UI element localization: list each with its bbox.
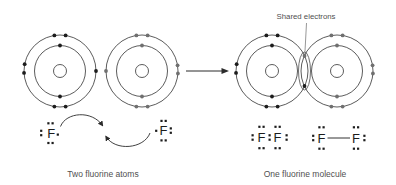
lewis-dot xyxy=(357,148,359,150)
lewis-dot xyxy=(279,147,281,149)
electron-dot xyxy=(146,34,150,38)
lewis-dot xyxy=(40,134,42,136)
caption-two-fluorine-atoms: Two fluorine atoms xyxy=(67,169,138,179)
electron-dot xyxy=(134,34,138,38)
electron-dot xyxy=(341,105,345,109)
lewis-dot xyxy=(318,126,320,128)
electron-dot xyxy=(270,44,274,48)
electron-dot xyxy=(146,105,150,109)
lewis-dot xyxy=(52,122,54,124)
caption-one-fluorine-molecule: One fluorine molecule xyxy=(264,169,347,179)
lewis-dot xyxy=(318,148,320,150)
shared-electron-dot xyxy=(303,84,307,88)
lewis-dot xyxy=(170,132,172,134)
lewis-dot xyxy=(252,134,254,136)
lewis-dot xyxy=(263,147,265,149)
lewis-dot xyxy=(312,135,314,137)
lewis-dot xyxy=(357,126,359,128)
lewis-dot xyxy=(279,126,281,128)
lewis-dot xyxy=(363,135,365,137)
lewis-dot xyxy=(155,130,157,132)
electron-dot xyxy=(371,63,375,67)
lewis-dot xyxy=(165,139,167,141)
electron-dot xyxy=(64,105,68,109)
lewis-dot xyxy=(353,126,355,128)
electron-dot xyxy=(140,44,144,48)
background xyxy=(0,0,396,185)
electron-dot xyxy=(335,95,339,99)
lewis-dot xyxy=(263,126,265,128)
electron-dot xyxy=(341,34,345,38)
lewis-dot xyxy=(312,139,314,141)
electron-dot xyxy=(58,95,62,99)
electron-dot xyxy=(276,105,280,109)
element-symbol: F xyxy=(160,123,168,138)
lewis-dot xyxy=(47,122,49,124)
shared-electrons-label: Shared electrons xyxy=(277,12,336,21)
lewis-dot xyxy=(40,130,42,132)
element-symbol: F xyxy=(274,130,282,145)
lewis-dot xyxy=(170,127,172,129)
electron-dot xyxy=(64,34,68,38)
bonding-diagram-figure: Shared electronsFFFFFFTwo fluorine atoms… xyxy=(0,0,396,185)
lewis-dot xyxy=(269,134,271,136)
lewis-dot xyxy=(160,120,162,122)
element-symbol: F xyxy=(352,131,360,146)
lewis-dot xyxy=(269,139,271,141)
bohr-lewis-diagram: Shared electronsFFFFFFTwo fluorine atoms… xyxy=(0,0,396,185)
lewis-dot xyxy=(323,126,325,128)
lewis-dot xyxy=(274,147,276,149)
lewis-dot xyxy=(47,142,49,144)
element-symbol: F xyxy=(47,126,55,141)
electron-dot xyxy=(22,71,26,75)
lewis-dot xyxy=(52,142,54,144)
electron-dot xyxy=(235,62,239,66)
electron-dot xyxy=(329,105,333,109)
electron-dot xyxy=(176,63,180,67)
electron-dot xyxy=(329,34,333,38)
lewis-dot xyxy=(286,134,288,136)
electron-dot xyxy=(94,69,98,73)
lewis-dot xyxy=(160,139,162,141)
electron-dot xyxy=(52,105,56,109)
lewis-dot xyxy=(274,126,276,128)
element-symbol: F xyxy=(318,131,326,146)
lewis-dot xyxy=(165,120,167,122)
electron-dot xyxy=(140,95,144,99)
electron-dot xyxy=(176,72,180,76)
lewis-dot xyxy=(286,139,288,141)
electron-dot xyxy=(234,71,238,75)
electron-dot xyxy=(264,105,268,109)
lewis-dot xyxy=(252,139,254,141)
electron-dot xyxy=(23,62,27,66)
electron-dot xyxy=(371,72,375,76)
electron-dot xyxy=(276,34,280,38)
lewis-dot xyxy=(323,148,325,150)
lewis-dot xyxy=(258,126,260,128)
lewis-dot xyxy=(353,148,355,150)
lewis-dot xyxy=(258,147,260,149)
electron-dot xyxy=(58,44,62,48)
electron-dot xyxy=(270,95,274,99)
lewis-dot xyxy=(57,134,59,136)
electron-dot xyxy=(52,34,56,38)
electron-dot xyxy=(134,105,138,109)
electron-dot xyxy=(264,34,268,38)
lewis-dot xyxy=(363,139,365,141)
electron-dot xyxy=(335,44,339,48)
element-symbol: F xyxy=(258,130,266,145)
electron-dot xyxy=(104,69,108,73)
